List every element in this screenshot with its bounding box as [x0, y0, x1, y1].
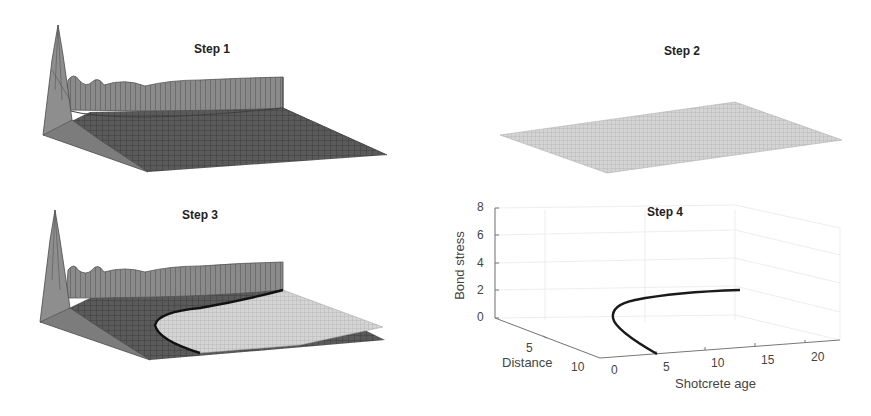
- panel-step1: Step 1: [0, 0, 435, 200]
- distance-tick-label: 5: [526, 341, 533, 355]
- line-plot-step4: [435, 200, 871, 416]
- panel-step2: Step 2: [435, 0, 871, 200]
- age-axis-label: Shotcrete age: [675, 376, 756, 391]
- surface-plot-step2: [435, 0, 871, 200]
- z-tick-label: 6: [477, 228, 484, 242]
- z-tick-label: 2: [477, 283, 484, 297]
- age-tick-label: 0: [611, 363, 618, 377]
- z-axis-label: Bond stress: [452, 231, 467, 300]
- age-tick-label: 20: [811, 350, 824, 364]
- surface-plot-step1: [0, 0, 435, 200]
- age-tick-label: 5: [663, 360, 670, 374]
- panel-step3: Step 3: [0, 200, 435, 416]
- age-tick-label: 15: [761, 353, 774, 367]
- surface-plot-step3: [0, 200, 435, 416]
- distance-axis-label: Distance: [502, 355, 553, 370]
- z-tick-label: 0: [477, 310, 484, 324]
- distance-tick-label: 10: [571, 360, 584, 374]
- z-tick-label: 8: [477, 200, 484, 214]
- panel-step4: Step 4: [435, 200, 871, 416]
- age-tick-label: 10: [711, 356, 724, 370]
- z-tick-label: 4: [477, 256, 484, 270]
